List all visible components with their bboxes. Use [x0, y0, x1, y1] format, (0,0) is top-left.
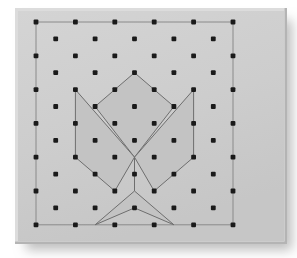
peg[interactable] [152, 222, 157, 227]
peg[interactable] [152, 121, 157, 126]
peg-offset[interactable] [93, 37, 98, 42]
peg[interactable] [112, 222, 117, 227]
peg[interactable] [191, 155, 196, 160]
peg[interactable] [73, 222, 78, 227]
peg-offset[interactable] [53, 70, 58, 75]
peg[interactable] [112, 189, 117, 194]
peg-offset[interactable] [211, 138, 216, 143]
peg[interactable] [231, 222, 236, 227]
peg[interactable] [231, 155, 236, 160]
peg-offset[interactable] [93, 206, 98, 211]
peg[interactable] [152, 189, 157, 194]
peg-offset[interactable] [132, 37, 137, 42]
geoboard-figure [0, 0, 297, 258]
peg[interactable] [231, 189, 236, 194]
peg-offset[interactable] [53, 172, 58, 177]
peg[interactable] [34, 155, 39, 160]
peg[interactable] [112, 53, 117, 58]
peg-offset[interactable] [93, 104, 98, 109]
peg-offset[interactable] [172, 37, 177, 42]
peg-offset[interactable] [53, 104, 58, 109]
peg-offset[interactable] [211, 37, 216, 42]
peg[interactable] [191, 222, 196, 227]
peg-offset[interactable] [172, 138, 177, 143]
peg-offset[interactable] [211, 172, 216, 177]
peg[interactable] [191, 87, 196, 92]
peg[interactable] [191, 121, 196, 126]
peg[interactable] [231, 53, 236, 58]
peg[interactable] [112, 87, 117, 92]
peg-offset[interactable] [211, 206, 216, 211]
peg-offset[interactable] [172, 206, 177, 211]
peg[interactable] [34, 87, 39, 92]
peg[interactable] [73, 87, 78, 92]
peg-offset[interactable] [172, 70, 177, 75]
peg-offset[interactable] [211, 70, 216, 75]
peg[interactable] [231, 87, 236, 92]
peg[interactable] [34, 121, 39, 126]
peg[interactable] [73, 121, 78, 126]
peg[interactable] [112, 155, 117, 160]
peg-offset[interactable] [132, 104, 137, 109]
peg[interactable] [152, 155, 157, 160]
peg[interactable] [34, 53, 39, 58]
peg[interactable] [34, 20, 39, 25]
peg-offset[interactable] [93, 172, 98, 177]
peg[interactable] [73, 20, 78, 25]
peg-offset[interactable] [172, 104, 177, 109]
peg-offset[interactable] [211, 104, 216, 109]
geoboard-canvas [0, 0, 297, 258]
peg-offset[interactable] [93, 138, 98, 143]
peg[interactable] [191, 189, 196, 194]
peg[interactable] [152, 87, 157, 92]
peg[interactable] [73, 53, 78, 58]
peg[interactable] [34, 222, 39, 227]
peg[interactable] [112, 20, 117, 25]
peg[interactable] [191, 20, 196, 25]
peg[interactable] [152, 20, 157, 25]
peg[interactable] [73, 189, 78, 194]
peg-offset[interactable] [93, 70, 98, 75]
peg-offset[interactable] [132, 138, 137, 143]
peg[interactable] [112, 121, 117, 126]
peg-offset[interactable] [132, 70, 137, 75]
peg-offset[interactable] [172, 172, 177, 177]
peg[interactable] [231, 20, 236, 25]
peg[interactable] [34, 189, 39, 194]
peg-offset[interactable] [53, 206, 58, 211]
peg-offset[interactable] [132, 206, 137, 211]
peg[interactable] [231, 121, 236, 126]
peg[interactable] [152, 53, 157, 58]
peg[interactable] [191, 53, 196, 58]
peg[interactable] [73, 155, 78, 160]
peg-offset[interactable] [53, 138, 58, 143]
peg-offset[interactable] [132, 172, 137, 177]
peg-offset[interactable] [53, 37, 58, 42]
